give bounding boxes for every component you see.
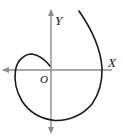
origin-label: O [40, 73, 48, 85]
x-axis-left-arrow-icon [2, 67, 9, 73]
spiral-figure: X Y O [0, 0, 123, 139]
y-axis-up-arrow-icon [48, 9, 54, 16]
x-axis-label: X [107, 55, 117, 70]
y-axis-down-arrow-icon [48, 127, 54, 134]
y-axis-label: Y [55, 13, 64, 28]
figure-canvas: X Y O [0, 0, 123, 139]
